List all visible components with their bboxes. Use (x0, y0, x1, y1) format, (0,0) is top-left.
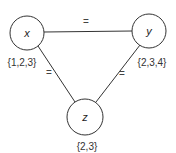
node-y-domain: {2,3,4} (138, 57, 167, 68)
edge-x-z-label: = (46, 67, 52, 78)
node-z-domain: {2,3} (77, 141, 98, 152)
edge-x-y (44, 31, 132, 32)
edge-x-z (38, 46, 75, 102)
edge-x-y-label: = (83, 16, 89, 27)
node-y-label: y (146, 25, 152, 37)
node-x-label: x (24, 27, 30, 39)
edge-y-z (96, 45, 140, 102)
node-x-domain: {1,2,3} (8, 57, 37, 68)
node-z-label: z (82, 111, 88, 123)
edge-y-z-label: = (119, 68, 125, 79)
